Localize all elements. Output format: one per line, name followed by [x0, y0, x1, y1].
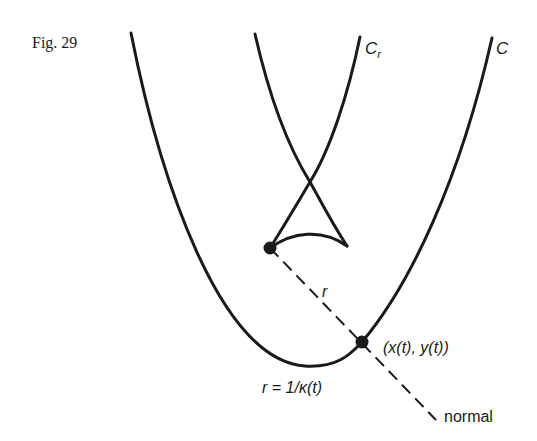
figure-canvas: Fig. 29 Cr C r (x(t), y(t)) r = 1/κ(t) n…	[0, 0, 537, 441]
label-curve-c: C	[496, 39, 509, 58]
curve-point	[356, 336, 369, 349]
figure-caption: Fig. 29	[32, 34, 77, 52]
label-radius-formula: r = 1/κ(t)	[262, 379, 322, 396]
curve-c	[131, 33, 492, 366]
curve-cr-left-branch	[255, 34, 347, 246]
curve-cr-right-branch	[270, 37, 360, 248]
curve-cr-cusp-arc	[270, 234, 347, 248]
label-point: (x(t), y(t))	[383, 339, 449, 356]
center-of-curvature-point	[264, 242, 277, 255]
label-normal: normal	[444, 408, 493, 425]
label-curve-cr: Cr	[365, 39, 382, 60]
label-radius: r	[322, 283, 328, 300]
